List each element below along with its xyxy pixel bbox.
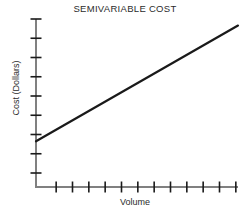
semivariable-cost-chart: SEMIVARIABLE COST Cost (Dollars) Volume [0,0,250,214]
y-axis [31,19,42,187]
cost-line [36,26,238,142]
plot-area [0,0,250,214]
x-axis [35,182,238,193]
cost-line-series [36,26,238,142]
